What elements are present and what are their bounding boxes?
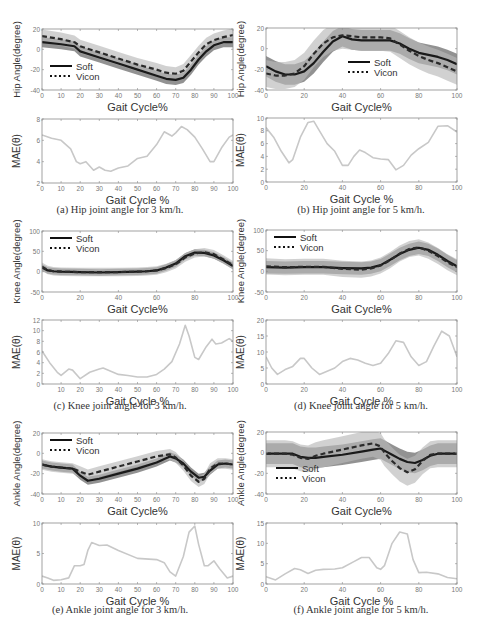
y-tick-label: -20 xyxy=(31,66,41,73)
y-axis-label: MAE(θ) xyxy=(11,134,22,168)
x-tick-label: 10 xyxy=(57,496,65,503)
x-tick-label: 100 xyxy=(452,586,463,593)
x-tick-label: 80 xyxy=(191,92,199,99)
x-tick-label: 60 xyxy=(377,92,385,99)
y-axis-label: MAE(θ) xyxy=(235,133,246,167)
caption-a: (a) Hip joint angle for 3 km/h. xyxy=(0,204,240,215)
x-tick-label: 40 xyxy=(115,294,123,301)
x-tick-label: 0 xyxy=(264,386,268,393)
x-tick-label: 30 xyxy=(96,496,104,503)
x-tick-label: 80 xyxy=(191,294,199,301)
legend: SoftVicon xyxy=(50,233,100,254)
y-tick-label: 5 xyxy=(260,560,264,567)
x-tick-label: 20 xyxy=(77,386,85,393)
y-tick-label: 4 xyxy=(260,153,264,160)
caption-c: (c) Knee joint angle for 3 km/h. xyxy=(0,400,240,411)
x-tick-label: 60 xyxy=(153,294,161,301)
x-tick-label: 90 xyxy=(210,185,218,192)
x-tick-label: 80 xyxy=(415,92,423,99)
y-tick-label: -40 xyxy=(255,87,265,94)
x-tick-label: 60 xyxy=(377,386,385,393)
legend: SoftVicon xyxy=(348,57,398,78)
x-tick-label: 30 xyxy=(96,586,104,593)
gait-figure: 0102030405060708090100-40-20020Gait Cycl… xyxy=(0,0,481,634)
x-tick-label: 10 xyxy=(57,586,65,593)
y-tick-label: 0 xyxy=(260,45,264,52)
x-tick-label: 80 xyxy=(415,496,423,503)
x-tick-label: 90 xyxy=(210,586,218,593)
y-axis-label: Ankle Angle(degree) xyxy=(11,420,22,506)
y-axis-label: MAE(θ) xyxy=(235,537,246,571)
y-tick-label: 6 xyxy=(36,349,40,356)
axes-box xyxy=(266,320,457,384)
x-axis-label: Gait Cycle% xyxy=(107,303,168,315)
x-tick-label: 90 xyxy=(210,496,218,503)
y-tick-label: 15 xyxy=(257,520,265,527)
y-tick-label: 100 xyxy=(253,227,264,234)
chart-ankle5-angle: 020406080100-40-20020Gait Cycle%Ankle An… xyxy=(235,420,463,517)
x-tick-label: 0 xyxy=(40,586,44,593)
y-tick-label: 20 xyxy=(257,317,265,324)
x-tick-label: 0 xyxy=(40,294,44,301)
x-tick-label: 80 xyxy=(191,386,199,393)
x-tick-label: 100 xyxy=(228,185,239,192)
x-tick-label: 0 xyxy=(40,92,44,99)
y-axis-label: Knee Angle(degree) xyxy=(235,219,246,304)
x-tick-label: 100 xyxy=(452,386,463,393)
y-axis-label: MAE(θ) xyxy=(11,335,22,369)
y-tick-label: 0 xyxy=(36,450,40,457)
x-tick-label: 30 xyxy=(96,185,104,192)
legend-label-vicon: Vicon xyxy=(302,473,326,484)
y-tick-label: 50 xyxy=(257,247,265,254)
x-tick-label: 60 xyxy=(377,294,385,301)
x-tick-label: 40 xyxy=(115,185,123,192)
x-tick-label: 60 xyxy=(153,586,161,593)
y-tick-label: 4 xyxy=(36,359,40,366)
x-tick-label: 100 xyxy=(452,294,463,301)
x-tick-label: 40 xyxy=(339,92,347,99)
y-tick-label: 2 xyxy=(36,370,40,377)
chart-ankle3-angle: 0102030405060708090100-40-20020Gait Cycl… xyxy=(11,420,239,517)
y-tick-label: 0 xyxy=(260,268,264,275)
axes-box xyxy=(42,320,233,384)
chart-knee3-angle: 020406080100-50050100Gait Cycle%Knee Ang… xyxy=(11,219,239,315)
x-tick-label: 70 xyxy=(172,386,180,393)
x-tick-label: 30 xyxy=(96,92,104,99)
y-tick-label: 8 xyxy=(36,338,40,345)
y-tick-label: 8 xyxy=(260,127,264,134)
y-tick-label: 5 xyxy=(36,550,40,557)
chart-hip3-angle: 0102030405060708090100-40-20020Gait Cycl… xyxy=(11,21,239,113)
y-tick-label: 10 xyxy=(33,327,41,334)
y-tick-label: 10 xyxy=(257,349,265,356)
x-tick-label: 50 xyxy=(134,386,142,393)
y-tick-label: 10 xyxy=(257,115,265,122)
band-vicon xyxy=(266,239,457,277)
x-tick-label: 0 xyxy=(264,184,268,191)
x-axis-label: Gait Cycle% xyxy=(107,505,168,517)
x-tick-label: 70 xyxy=(172,496,180,503)
x-axis-label: Gait Cycle% xyxy=(331,505,392,517)
x-axis-label: Gait Cycle% xyxy=(107,101,168,113)
legend: SoftVicon xyxy=(50,61,100,82)
y-tick-label: 10 xyxy=(33,520,41,527)
y-tick-label: 20 xyxy=(257,25,265,32)
x-tick-label: 20 xyxy=(77,185,85,192)
legend: SoftVicon xyxy=(50,435,100,456)
x-tick-label: 40 xyxy=(115,496,123,503)
y-tick-label: 0 xyxy=(260,581,264,588)
x-axis-label: Gait Cycle% xyxy=(331,303,392,315)
y-tick-label: 6 xyxy=(260,140,264,147)
y-tick-label: 0 xyxy=(260,449,264,456)
x-tick-label: 40 xyxy=(339,184,347,191)
chart-hip3-mae: 01020304050607080901002468Gait Cycle %MA… xyxy=(11,116,239,207)
axes-box xyxy=(42,231,233,292)
x-tick-label: 80 xyxy=(191,185,199,192)
x-tick-label: 70 xyxy=(172,586,180,593)
x-tick-label: 40 xyxy=(115,386,123,393)
y-tick-label: 0 xyxy=(260,179,264,186)
legend-label-vicon: Vicon xyxy=(76,243,100,254)
y-axis-label: MAE(θ) xyxy=(235,335,246,369)
caption-e: (e) Ankle joint angle for 3 km/h. xyxy=(0,604,240,615)
x-tick-label: 20 xyxy=(77,294,85,301)
x-tick-label: 20 xyxy=(301,184,309,191)
